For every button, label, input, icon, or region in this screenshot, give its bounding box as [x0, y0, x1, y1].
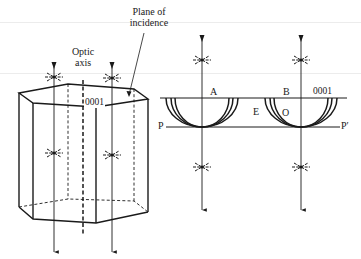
wavefront-ray-a	[193, 35, 211, 210]
plane-of-incidence-pointer	[127, 33, 145, 97]
plane-p-prime-label: P′	[341, 120, 349, 131]
plane-of-incidence-label-line2: incidence	[125, 17, 173, 28]
crystal-ray-left	[45, 62, 63, 252]
crystal-ray-right	[103, 62, 121, 252]
plane-of-incidence-label: Plane of incidence	[125, 6, 173, 28]
wavefront-face-label: 0001	[313, 86, 332, 97]
crystal-face-label: 0001	[84, 97, 105, 108]
arrow-icon	[127, 91, 132, 97]
plane-p-label: P	[158, 120, 164, 131]
arrow-down-icon	[299, 35, 304, 42]
point-b-label: B	[283, 86, 290, 97]
ordinary-wave-label: O	[282, 107, 289, 118]
optic-axis-label-line2: axis	[66, 57, 100, 68]
arrow-down-icon	[52, 62, 57, 69]
arrow-down-icon	[200, 35, 205, 42]
crystal-bottom-edges	[19, 207, 148, 223]
arrow-down-icon	[110, 62, 115, 69]
optic-axis-label-line1: Optic	[66, 46, 100, 57]
point-a-label: A	[210, 86, 217, 97]
plane-of-incidence-label-line1: Plane of	[125, 6, 173, 17]
extraordinary-wave-label: E	[253, 106, 259, 117]
optic-axis-label: Optic axis	[66, 46, 100, 68]
wavefront-ray-b	[292, 35, 310, 210]
diagram-canvas	[0, 0, 361, 259]
